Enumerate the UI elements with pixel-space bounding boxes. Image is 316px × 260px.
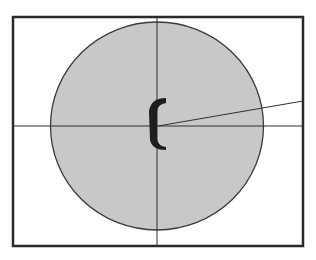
diagram-canvas	[0, 0, 316, 260]
